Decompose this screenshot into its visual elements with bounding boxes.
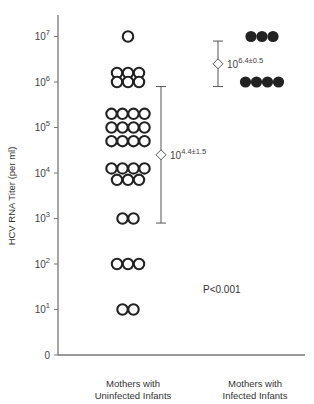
open-data-point	[128, 122, 138, 132]
x-category-line1: Mothers with	[73, 378, 193, 390]
open-data-point	[112, 259, 122, 269]
y-tick-label: 0	[44, 350, 50, 361]
open-data-point	[128, 213, 138, 223]
axes: 0101102103104105106107	[35, 15, 305, 361]
open-data-point	[106, 163, 116, 173]
open-data-point	[123, 77, 133, 87]
open-data-point	[106, 109, 116, 119]
filled-data-point	[267, 31, 278, 42]
open-data-point	[117, 304, 127, 314]
open-data-point	[117, 109, 127, 119]
filled-data-point	[240, 76, 251, 87]
open-data-point	[123, 31, 133, 41]
y-tick-label: 103	[35, 210, 50, 224]
series-uninfected-infants	[106, 31, 149, 314]
open-data-point	[128, 136, 138, 146]
open-data-point	[117, 136, 127, 146]
filled-data-point	[262, 76, 273, 87]
x-category-infected: Mothers with Infected Infants	[195, 378, 314, 402]
open-data-point	[134, 175, 144, 185]
p-value-annotation: P<0.001	[203, 284, 241, 295]
open-data-point	[139, 163, 149, 173]
open-data-point	[106, 122, 116, 132]
y-tick-label: 105	[35, 119, 50, 133]
open-data-point	[134, 77, 144, 87]
x-category-line2: Uninfected Infants	[73, 390, 193, 402]
open-data-point	[139, 122, 149, 132]
filled-data-point	[251, 76, 262, 87]
open-data-point	[128, 163, 138, 173]
open-data-point	[134, 259, 144, 269]
filled-data-point	[256, 31, 267, 42]
open-data-point	[112, 77, 122, 87]
open-data-point	[117, 122, 127, 132]
open-data-point	[112, 175, 122, 185]
y-tick-label: 102	[35, 256, 50, 270]
mean-label: 106.4±0.5	[227, 56, 263, 70]
open-data-point	[123, 175, 133, 185]
mean-label: 104.4±1.5	[170, 147, 206, 161]
mean-sd-bars: 104.4±1.5106.4±0.5	[156, 41, 263, 223]
mean-diamond-icon	[156, 150, 166, 160]
open-data-point	[106, 136, 116, 146]
x-category-line2: Infected Infants	[195, 390, 314, 402]
filled-data-point	[273, 76, 284, 87]
filled-data-point	[245, 31, 256, 42]
x-category-uninfected: Mothers with Uninfected Infants	[73, 378, 193, 402]
mean-diamond-icon	[213, 59, 223, 69]
open-data-point	[117, 213, 127, 223]
open-data-point	[128, 304, 138, 314]
x-category-line1: Mothers with	[195, 378, 314, 390]
y-tick-label: 107	[35, 28, 50, 42]
open-data-point	[128, 109, 138, 119]
y-tick-label: 106	[35, 74, 50, 88]
open-data-point	[139, 136, 149, 146]
y-tick-label: 104	[35, 165, 50, 179]
open-data-point	[117, 163, 127, 173]
open-data-point	[123, 259, 133, 269]
y-tick-label: 101	[35, 301, 50, 315]
open-data-point	[139, 109, 149, 119]
y-axis-label: HCV RNA Titer (per ml)	[6, 147, 17, 246]
chart-plot-area: 0101102103104105106107 104.4±1.5106.4±0.…	[0, 0, 314, 404]
